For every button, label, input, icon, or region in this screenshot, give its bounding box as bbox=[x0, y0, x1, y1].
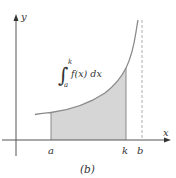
y-axis-label: y bbox=[20, 11, 27, 22]
improper-integral-diagram: y x a k b ∫ k a f(x) dx (b) bbox=[0, 0, 176, 178]
tick-label-b: b bbox=[137, 145, 143, 156]
tick-label-a: a bbox=[48, 145, 54, 156]
integral-upper-limit: k bbox=[68, 58, 72, 66]
integral-integrand: f(x) dx bbox=[70, 68, 102, 79]
x-axis-label: x bbox=[163, 127, 169, 138]
figure-caption: (b) bbox=[80, 163, 95, 175]
integral-lower-limit: a bbox=[64, 81, 68, 89]
x-axis-arrow-icon bbox=[164, 138, 171, 143]
tick-label-k: k bbox=[122, 145, 128, 156]
y-axis-arrow-icon bbox=[14, 14, 19, 21]
